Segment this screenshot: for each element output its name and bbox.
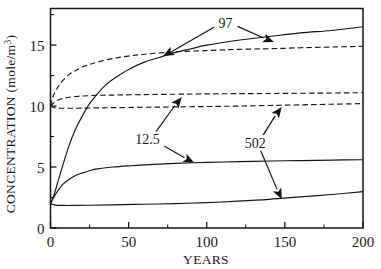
annotation-arrowhead-97-1 <box>262 34 274 43</box>
series-97-solid <box>51 27 364 204</box>
x-tick-label-100: 100 <box>196 234 219 250</box>
x-tick-label-150: 150 <box>274 234 297 250</box>
annotation-label-502: 502 <box>245 136 266 151</box>
annotation-arrowhead-97-0 <box>163 47 175 56</box>
annotation-leader-12.5-0 <box>156 106 175 132</box>
series-502-dashed <box>51 104 364 109</box>
annotation-label-97: 97 <box>219 16 233 31</box>
annotation-arrowhead-502-0 <box>271 107 281 119</box>
y-axis-title-main: CONCENTRATION (mole/m <box>3 44 18 213</box>
figure-container: 050100150200051015 9712.5502 YEARS CONCE… <box>0 0 381 269</box>
curve-group <box>51 27 364 206</box>
y-axis-title-tail: ) <box>3 35 18 40</box>
concentration-vs-years-chart: 050100150200051015 9712.5502 YEARS CONCE… <box>0 0 381 269</box>
series-12.5-solid <box>51 160 364 204</box>
annotation-label-12.5: 12.5 <box>135 132 160 147</box>
y-axis-title: CONCENTRATION (mole/m3) <box>3 35 18 214</box>
x-tick-label-0: 0 <box>47 234 55 250</box>
y-tick-label-10: 10 <box>30 99 45 115</box>
y-tick-label-5: 5 <box>37 160 45 176</box>
annotation-leader-502-0 <box>263 116 275 136</box>
x-tick-label-200: 200 <box>352 234 375 250</box>
y-tick-label-15: 15 <box>30 38 45 54</box>
annotation-leader-502-1 <box>261 151 277 190</box>
series-97-dashed <box>51 46 364 106</box>
y-tick-label-0: 0 <box>37 221 45 237</box>
annotation-leader-97-0 <box>173 27 214 51</box>
axis-group: 050100150200051015 <box>30 9 375 251</box>
annotation-leader-97-1 <box>238 26 264 38</box>
x-axis-title: YEARS <box>183 252 229 267</box>
x-tick-label-50: 50 <box>121 234 136 250</box>
series-502-solid <box>51 192 364 206</box>
plot-frame <box>51 9 364 229</box>
annotation-group: 9712.5502 <box>130 16 282 200</box>
